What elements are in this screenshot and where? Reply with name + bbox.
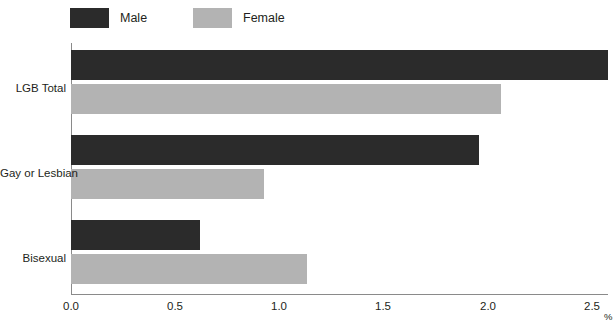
chart-legend: Male Female xyxy=(0,0,615,36)
legend-item-male: Male xyxy=(70,8,147,28)
plot-area xyxy=(71,43,608,294)
y-axis-label-bisexual: Bisexual xyxy=(0,252,66,264)
bar-gay-lesbian-female xyxy=(71,169,264,199)
legend-swatch-female-icon xyxy=(193,8,232,28)
legend-label-male: Male xyxy=(120,12,147,25)
legend-item-female: Female xyxy=(193,8,285,28)
legend-label-female: Female xyxy=(243,12,285,25)
x-axis-line xyxy=(71,294,608,295)
x-tick-label-2: 1.0 xyxy=(271,300,287,312)
bar-chart: Male Female LGB Total Gay or Lesbian Bis… xyxy=(0,0,615,330)
bar-gay-lesbian-male xyxy=(71,135,479,165)
bar-bisexual-female xyxy=(71,254,307,284)
bar-bisexual-male xyxy=(71,220,200,250)
legend-swatch-male-icon xyxy=(70,8,109,28)
y-axis-label-lgb-total: LGB Total xyxy=(0,82,66,94)
x-tick-label-4: 2.0 xyxy=(480,300,496,312)
bar-lgb-total-male xyxy=(71,50,608,80)
x-tick-label-3: 1.5 xyxy=(375,300,391,312)
x-tick-label-0: 0.0 xyxy=(63,300,79,312)
x-axis-unit-label: % xyxy=(604,311,612,322)
bar-lgb-total-female xyxy=(71,84,501,114)
y-axis-label-gay-lesbian: Gay or Lesbian xyxy=(0,167,66,179)
x-tick-label-5: 2.5 xyxy=(584,300,600,312)
x-tick-label-1: 0.5 xyxy=(167,300,183,312)
